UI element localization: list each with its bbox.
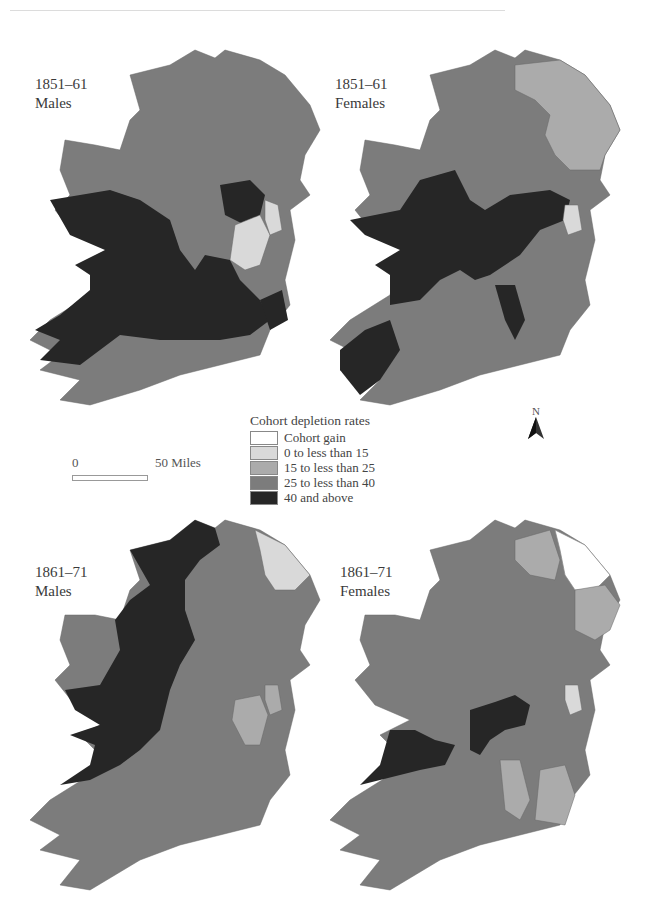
map-sex-label: Males xyxy=(35,582,88,601)
north-arrow: N xyxy=(526,405,546,443)
ireland-map xyxy=(320,490,630,910)
map-period-label: 1861–71 xyxy=(35,563,88,582)
map-1851-61-females: 1851–61 Females xyxy=(320,20,630,440)
legend-item-15-25: 15 to less than 25 xyxy=(250,460,375,475)
map-sex-label: Females xyxy=(340,582,393,601)
legend-item-40-above: 40 and above xyxy=(250,490,375,505)
legend-label: Cohort gain xyxy=(284,430,346,446)
legend-item-0-15: 0 to less than 15 xyxy=(250,445,375,460)
legend-item-25-40: 25 to less than 40 xyxy=(250,475,375,490)
map-1851-61-males: 1851–61 Males xyxy=(20,20,330,440)
legend-title: Cohort depletion rates xyxy=(250,413,375,429)
legend-label: 15 to less than 25 xyxy=(284,460,375,476)
legend-label: 40 and above xyxy=(284,490,353,506)
map-1861-71-males: 1861–71 Males xyxy=(20,490,330,910)
map-period-label: 1851–61 xyxy=(335,75,388,94)
legend-swatch xyxy=(250,431,278,445)
legend-swatch xyxy=(250,491,278,505)
north-label: N xyxy=(526,405,546,417)
legend-label: 0 to less than 15 xyxy=(284,445,369,461)
map-sex-label: Males xyxy=(35,94,88,113)
map-period-label: 1851–61 xyxy=(35,75,88,94)
north-arrow-icon xyxy=(528,417,544,439)
legend-item-cohort-gain: Cohort gain xyxy=(250,430,375,445)
legend-label: 25 to less than 40 xyxy=(284,475,375,491)
map-sex-label: Females xyxy=(335,94,388,113)
scale-end-label: 50 Miles xyxy=(155,455,201,471)
map-period-label: 1861–71 xyxy=(340,563,393,582)
legend-swatch xyxy=(250,476,278,490)
ireland-map xyxy=(20,490,330,910)
map-1861-71-females: 1861–71 Females xyxy=(320,490,630,910)
legend-swatch xyxy=(250,446,278,460)
scale-start-label: 0 xyxy=(72,455,79,471)
legend-swatch xyxy=(250,461,278,475)
top-rule xyxy=(10,10,505,11)
scale-bar: 0 50 Miles xyxy=(72,455,182,481)
scale-bar-graphic xyxy=(72,475,148,481)
legend: Cohort depletion rates Cohort gain 0 to … xyxy=(250,413,375,505)
